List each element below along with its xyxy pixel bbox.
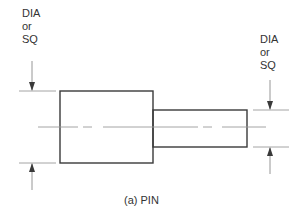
- right-dimension-label: DIA or SQ: [260, 33, 278, 72]
- pin-shank-outline: [153, 110, 247, 147]
- left-dimension-label: DIA or SQ: [22, 7, 40, 46]
- left-label-line2: or: [22, 20, 40, 33]
- right-label-line3: SQ: [260, 59, 278, 72]
- right-label-line2: or: [260, 46, 278, 59]
- right-label-line1: DIA: [260, 33, 278, 46]
- left-dimension-arrows: [29, 61, 35, 190]
- pin-drawing: [0, 0, 298, 215]
- left-label-line1: DIA: [22, 7, 40, 20]
- right-extension-lines: [253, 110, 289, 147]
- left-label-line3: SQ: [22, 33, 40, 46]
- right-dimension-arrows: [267, 80, 273, 174]
- figure-caption: (a) PIN: [124, 194, 159, 206]
